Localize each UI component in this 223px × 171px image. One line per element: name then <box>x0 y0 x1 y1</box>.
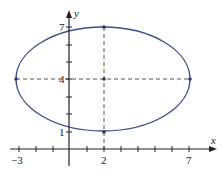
x-tick-label-7: 7 <box>186 154 192 166</box>
y-axis-label: y <box>73 7 79 19</box>
y-tick-label-7: 7 <box>59 21 65 33</box>
x-axis-label: x <box>210 134 216 146</box>
x-tick-label-2: 2 <box>101 154 107 166</box>
x-tick-label-neg3: −3 <box>11 154 23 166</box>
y-tick-label-4: 4 <box>59 73 65 85</box>
x-axis-arrow-icon <box>209 146 217 152</box>
y-tick-label-1: 1 <box>59 126 65 138</box>
ellipse-chart: x y −3 2 7 1 4 7 <box>0 0 223 171</box>
y-axis-arrow-icon <box>66 10 72 18</box>
